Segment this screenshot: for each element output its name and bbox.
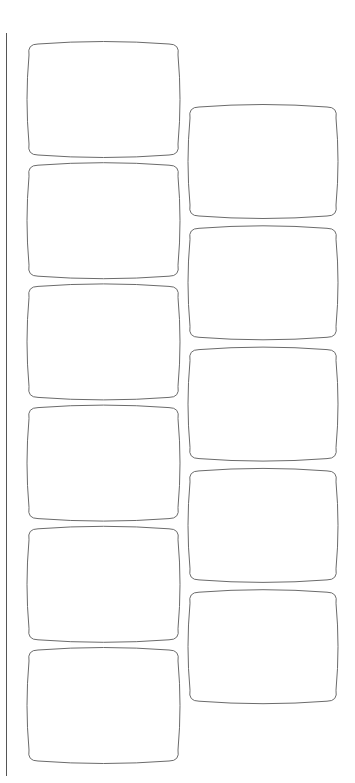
left-tile-2[interactable] bbox=[27, 163, 180, 279]
left-column bbox=[27, 42, 180, 764]
left-tile-6[interactable] bbox=[27, 648, 180, 764]
left-tile-4[interactable] bbox=[27, 405, 180, 521]
right-tile-5[interactable] bbox=[188, 590, 338, 704]
tile-layout-canvas bbox=[0, 0, 355, 783]
right-tile-3[interactable] bbox=[188, 347, 338, 461]
right-tile-4[interactable] bbox=[188, 468, 338, 582]
right-column bbox=[188, 105, 338, 704]
left-tile-1[interactable] bbox=[27, 42, 180, 158]
left-tile-5[interactable] bbox=[27, 526, 180, 642]
right-tile-2[interactable] bbox=[188, 226, 338, 340]
left-tile-3[interactable] bbox=[27, 284, 180, 400]
right-tile-1[interactable] bbox=[188, 105, 338, 219]
